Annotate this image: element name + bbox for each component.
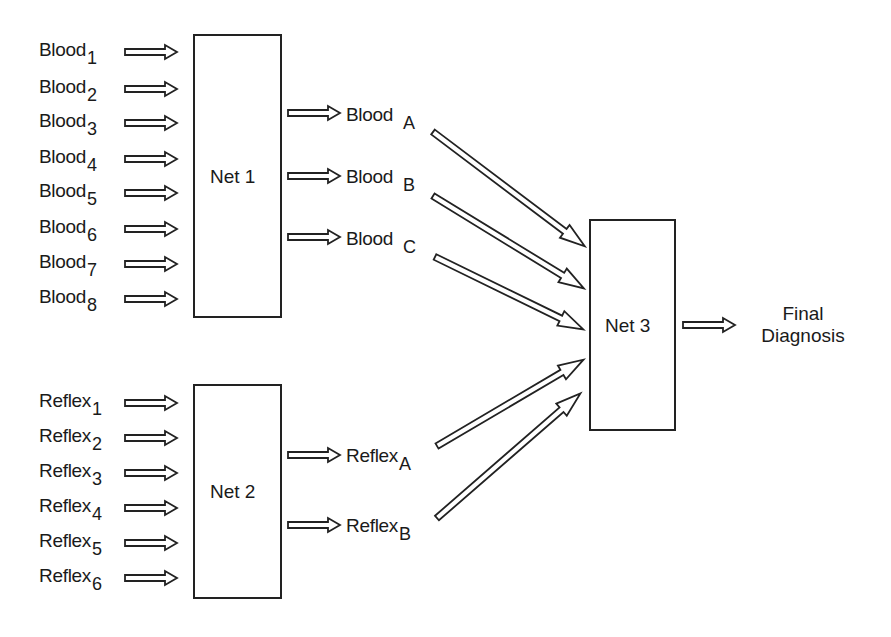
blood-output-b: BloodB — [346, 167, 415, 186]
blood-c-arrow — [431, 250, 586, 337]
blood-b-arrow — [429, 189, 588, 295]
blood-output-a: BloodA — [346, 105, 415, 124]
reflex-input-arrows — [125, 396, 177, 585]
reflex-input-5: Reflex5 — [39, 531, 102, 550]
blood-input-3: Blood3 — [39, 111, 97, 130]
reflex-input-4: Reflex4 — [39, 496, 102, 515]
reflex-input-3: Reflex3 — [39, 461, 102, 480]
net2-output-arrows — [288, 448, 340, 532]
blood-input-6: Blood6 — [39, 217, 97, 236]
blood-input-7: Blood7 — [39, 252, 97, 271]
blood-input-4: Blood4 — [39, 147, 97, 166]
reflex-input-1: Reflex1 — [39, 391, 102, 410]
blood-input-5: Blood5 — [39, 181, 97, 200]
net2-label: Net 2 — [210, 482, 255, 501]
blood-input-arrows — [125, 45, 177, 306]
final-line2: Diagnosis — [748, 325, 858, 347]
reflex-output-b: ReflexB — [346, 516, 411, 535]
blood-input-1: Blood1 — [39, 40, 97, 59]
final-line1: Final — [748, 303, 858, 325]
blood-a-arrow — [428, 126, 589, 253]
reflex-output-a: ReflexA — [346, 446, 411, 465]
net1-label: Net 1 — [210, 167, 255, 186]
net3-output-arrow — [683, 318, 735, 332]
blood-input-8: Blood8 — [39, 287, 97, 306]
blood-output-c: BloodC — [346, 229, 416, 248]
blood-input-2: Blood2 — [39, 77, 97, 96]
net1-output-arrows — [288, 106, 340, 244]
diagonal-arrows — [428, 126, 589, 524]
net3-label: Net 3 — [605, 316, 650, 335]
final-diagnosis-label: Final Diagnosis — [748, 303, 858, 347]
reflex-input-2: Reflex2 — [39, 426, 102, 445]
reflex-input-6: Reflex6 — [39, 566, 102, 585]
